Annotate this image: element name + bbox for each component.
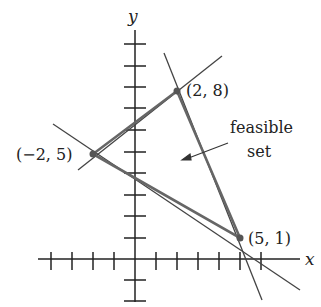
feasible-label-line1: feasible <box>230 118 293 137</box>
vertex-5-1 <box>237 235 244 242</box>
feasible-set-diagram: y x (2, 8) (−2, 5) (5, 1) feasible set <box>0 0 321 307</box>
x-axis <box>38 252 300 270</box>
y-axis <box>124 30 146 302</box>
vertex-label-2-8: (2, 8) <box>186 81 229 100</box>
vertex-2-8 <box>174 88 181 95</box>
x-axis-label: x <box>305 249 315 269</box>
vertex-label-neg2-5: (−2, 5) <box>16 145 72 164</box>
y-axis-label: y <box>127 6 138 26</box>
vertex-label-5-1: (5, 1) <box>248 229 291 248</box>
vertex-neg2-5 <box>90 151 97 158</box>
feasible-label-line2: set <box>247 142 272 161</box>
feasible-set-boundary <box>93 91 240 238</box>
